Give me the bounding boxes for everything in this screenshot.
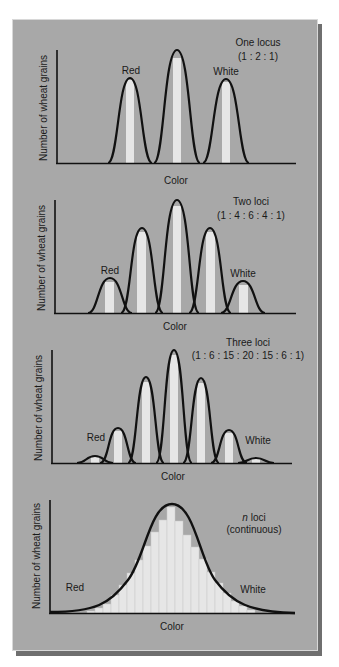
panel-title: Three loci — [226, 337, 270, 348]
figure-svg: Red White One locus (1 : 2 : 1) Color Nu… — [0, 0, 339, 667]
y-axis-label: Number of wheat grains — [31, 503, 42, 609]
chart-three-loci: Red White Three loci (1 : 6 : 15 : 20 : … — [33, 337, 304, 482]
panel-title: One locus — [235, 37, 280, 48]
ratio-label: (1 : 4 : 6 : 4 : 1) — [217, 210, 285, 221]
left-label: Red — [66, 582, 84, 593]
left-label: Red — [101, 265, 119, 276]
x-axis-label: Color — [161, 471, 186, 482]
bars — [91, 355, 260, 463]
left-label: Red — [87, 432, 105, 443]
y-axis-label: Number of wheat grains — [38, 55, 49, 161]
x-axis-label: Color — [163, 321, 188, 332]
ratio-label: (continuous) — [226, 524, 281, 535]
right-label: White — [213, 66, 239, 77]
ratio-label: (1 : 2 : 1) — [238, 51, 278, 62]
chart-n-loci: Red White n loci (continuous) Color Numb… — [31, 500, 295, 632]
panel-title: n loci — [242, 512, 265, 523]
title-rest: loci — [248, 512, 266, 523]
y-axis-label: Number of wheat grains — [36, 205, 47, 311]
y-axis-label: Number of wheat grains — [33, 355, 44, 461]
chart-one-locus: Red White One locus (1 : 2 : 1) Color Nu… — [38, 37, 296, 186]
panel-title: Two loci — [233, 196, 269, 207]
x-axis-label: Color — [160, 621, 185, 632]
right-label: White — [245, 435, 271, 446]
left-label: Red — [122, 65, 140, 76]
chart-two-loci: Red White Two loci (1 : 4 : 6 : 4 : 1) C… — [36, 196, 296, 332]
x-axis-label: Color — [164, 175, 189, 186]
right-label: White — [240, 584, 266, 595]
right-label: White — [230, 268, 256, 279]
ratio-label: (1 : 6 : 15 : 20 : 15 : 6 : 1) — [192, 350, 304, 361]
